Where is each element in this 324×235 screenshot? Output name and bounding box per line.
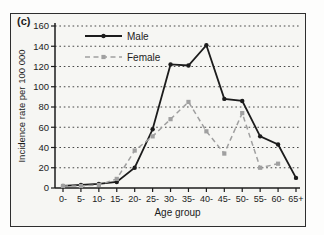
female-line	[63, 102, 278, 186]
x-tick-label: 45-	[218, 194, 231, 204]
female-marker	[204, 129, 208, 133]
x-tick-label: 25-	[146, 194, 159, 204]
y-tick-label: 120	[33, 61, 49, 72]
male-marker	[294, 176, 298, 180]
x-tick-label: 15-	[110, 194, 123, 204]
female-marker	[151, 134, 155, 138]
x-tick-label: 5-	[77, 194, 85, 204]
x-tick-label: 40-	[200, 194, 213, 204]
female-marker	[240, 111, 244, 115]
male-marker	[276, 142, 280, 146]
male-marker	[222, 97, 226, 101]
male-marker	[240, 99, 244, 103]
female-marker	[168, 117, 172, 121]
y-tick-label: 100	[33, 81, 49, 92]
x-tick-label: 35-	[182, 194, 195, 204]
x-tick-label: 60-	[272, 194, 285, 204]
y-tick-label: 140	[33, 41, 49, 52]
female-marker	[115, 177, 119, 181]
male-marker	[132, 166, 136, 170]
legend-label-female: Female	[127, 52, 160, 63]
x-tick-label: 30-	[164, 194, 177, 204]
x-tick-label: 50-	[236, 194, 249, 204]
female-marker	[276, 162, 280, 166]
y-tick-label: 80	[38, 101, 49, 112]
female-legend-marker	[101, 55, 105, 59]
x-axis-title: Age group	[55, 207, 300, 218]
male-marker	[150, 127, 154, 131]
y-tick-label: 20	[38, 162, 49, 173]
female-marker	[79, 184, 83, 188]
male-marker	[258, 134, 262, 138]
male-marker	[186, 63, 190, 67]
female-marker	[186, 100, 190, 104]
male-marker	[204, 43, 208, 47]
x-tick-label: 55-	[254, 194, 267, 204]
y-tick-label: 40	[38, 142, 49, 153]
legend-label-male: Male	[127, 31, 149, 42]
female-marker	[61, 184, 65, 188]
y-axis-title: Incidence rate per 100 000	[16, 49, 27, 162]
y-tick-label: 160	[33, 20, 49, 31]
x-tick-label: 10-	[92, 194, 105, 204]
y-tick-label: 60	[38, 122, 49, 133]
chart-canvas: 0204060801001201401600-5-10-15-20-25-30-…	[0, 0, 324, 235]
male-marker	[168, 62, 172, 66]
female-marker	[97, 183, 101, 187]
y-tick-label: 0	[44, 182, 49, 193]
female-marker	[133, 148, 137, 152]
x-tick-label: 20-	[128, 194, 141, 204]
female-marker	[222, 151, 226, 155]
female-marker	[258, 166, 262, 170]
male-legend-marker	[101, 34, 105, 38]
x-tick-label: 65+	[288, 194, 303, 204]
x-tick-label: 0-	[59, 194, 67, 204]
figure: (c) 0204060801001201401600-5-10-15-20-25…	[0, 0, 324, 235]
